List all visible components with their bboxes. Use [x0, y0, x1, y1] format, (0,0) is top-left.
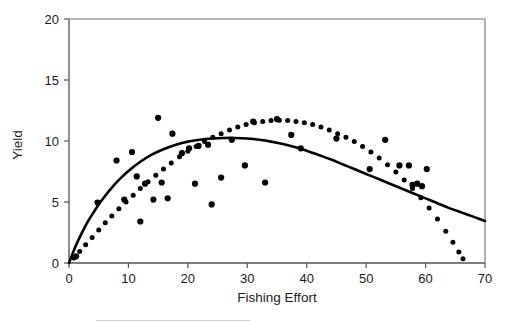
x-axis-tick-labels: 010203040506070 — [65, 271, 492, 286]
x-tick-label-10: 10 — [121, 271, 135, 286]
dotted-curve-dot — [227, 128, 232, 133]
dotted-curve-dot — [360, 144, 365, 149]
observation-marker — [333, 135, 339, 141]
observation-marker — [262, 179, 268, 185]
observation-marker — [396, 162, 402, 168]
observation-marker — [159, 179, 165, 185]
observation-marker — [113, 157, 119, 163]
observation-marker — [169, 131, 175, 137]
dotted-curve-dot — [377, 156, 382, 161]
x-tick-label-40: 40 — [299, 271, 313, 286]
observation-marker — [406, 162, 412, 168]
dotted-curve-dot — [244, 122, 249, 127]
plot-axis-left-bottom — [69, 19, 485, 263]
dotted-curve-dot — [385, 162, 390, 167]
yield-effort-chart: 010203040506070 05101520 Fishing Effort … — [0, 0, 506, 321]
dotted-curve-dot — [461, 256, 466, 261]
x-tick-label-70: 70 — [478, 271, 492, 286]
dotted-curve-dot — [210, 135, 215, 140]
observation-marker — [419, 183, 425, 189]
dotted-curve-dot — [153, 173, 158, 178]
dotted-curve-dot — [443, 229, 448, 234]
y-axis-title: Yield — [10, 130, 25, 160]
observation-marker — [298, 145, 304, 151]
dotted-curve-dot — [96, 228, 101, 233]
x-tick-label-0: 0 — [65, 271, 72, 286]
dotted-curve-dot — [427, 206, 432, 211]
y-tick-label-15: 15 — [45, 73, 59, 88]
dotted-curve-dot — [260, 119, 265, 124]
dotted-curve-dot — [456, 250, 461, 255]
y-axis-tick-labels: 05101520 — [45, 12, 59, 271]
observation-marker — [382, 137, 388, 143]
dotted-curve-dot — [77, 249, 82, 254]
dotted-curve-dot — [418, 195, 423, 200]
x-tick-label-30: 30 — [240, 271, 254, 286]
observation-marker — [121, 196, 127, 202]
plot-frame — [69, 19, 485, 263]
observation-marker — [179, 150, 185, 156]
fitted-yield-curve — [69, 138, 485, 263]
observation-marker — [250, 118, 256, 124]
dotted-curve-dot — [327, 128, 332, 133]
observation-marker — [367, 166, 373, 172]
observation-marker — [192, 181, 198, 187]
dotted-curve-dot — [161, 167, 166, 172]
dotted-curve-dot — [402, 178, 407, 183]
observed-data-points — [73, 115, 430, 260]
x-axis-title: Fishing Effort — [237, 290, 317, 305]
observation-marker — [150, 196, 156, 202]
dotted-curve-dot — [219, 131, 224, 136]
y-axis-ticks — [64, 19, 69, 263]
dotted-curve-dot — [335, 131, 340, 136]
dotted-curve-dot — [90, 235, 95, 240]
observation-marker — [209, 201, 215, 207]
observation-marker — [195, 143, 201, 149]
observation-marker — [137, 218, 143, 224]
dotted-curve-dot — [83, 242, 88, 247]
observation-marker — [205, 142, 211, 148]
x-axis-ticks — [69, 263, 485, 268]
dotted-curve-dot — [343, 135, 348, 140]
observation-marker — [424, 166, 430, 172]
dotted-curve-dot — [131, 193, 136, 198]
dotted-curve-dot — [352, 139, 357, 144]
dotted-curve-dot — [285, 118, 290, 123]
observation-marker — [94, 200, 100, 206]
dotted-curve-dot — [368, 149, 373, 154]
y-tick-label-20: 20 — [45, 12, 59, 27]
y-tick-label-0: 0 — [52, 256, 59, 271]
x-tick-label-20: 20 — [181, 271, 195, 286]
observation-marker — [288, 132, 294, 138]
dotted-curve-dot — [235, 124, 240, 129]
dotted-curve-dot — [116, 206, 121, 211]
plot-frame-top-right — [69, 19, 485, 263]
observation-marker — [218, 175, 224, 181]
fitted-yield-curve-path — [69, 138, 485, 263]
dotted-curve-dot — [103, 220, 108, 225]
observation-marker — [242, 162, 248, 168]
observation-marker — [134, 173, 140, 179]
figure-container: 010203040506070 05101520 Fishing Effort … — [0, 0, 506, 321]
y-tick-label-5: 5 — [52, 195, 59, 210]
observation-marker — [165, 195, 171, 201]
dotted-curve-dot — [169, 160, 174, 165]
dotted-curve-dot — [310, 122, 315, 127]
dotted-curve-dot — [269, 118, 274, 123]
dotted-curve-dot — [318, 124, 323, 129]
dotted-curve-dot — [138, 186, 143, 191]
x-tick-label-50: 50 — [359, 271, 373, 286]
dotted-curve-dot — [294, 119, 299, 124]
dotted-curve-dot — [435, 217, 440, 222]
dotted-curve-dot — [450, 240, 455, 245]
dotted-curve-dot — [109, 214, 114, 219]
dotted-curve-dot — [302, 120, 307, 125]
observation-marker — [142, 181, 148, 187]
observation-marker — [229, 137, 235, 143]
y-tick-label-10: 10 — [45, 134, 59, 149]
x-tick-label-60: 60 — [418, 271, 432, 286]
dotted-curve-dot — [393, 170, 398, 175]
observation-marker — [129, 149, 135, 155]
observation-marker — [155, 115, 161, 121]
observation-marker — [274, 116, 280, 122]
